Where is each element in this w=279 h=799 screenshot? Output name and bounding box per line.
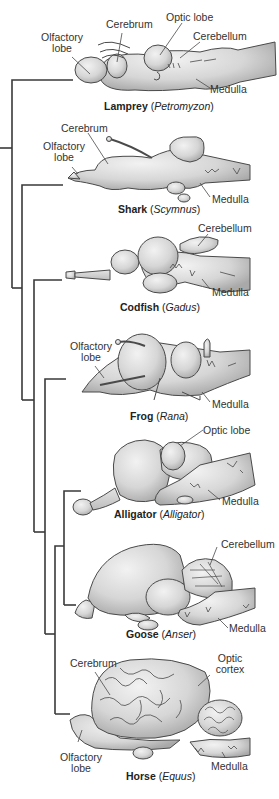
label-frog-olfactory-lobe: Olfactorylobe — [68, 341, 114, 363]
label-horse-olfactory-lobe: Olfactorylobe — [58, 752, 104, 774]
genus-horse: Equus — [162, 770, 192, 782]
common-name-alligator: Alligator — [114, 508, 157, 520]
caption-frog: Frog (Rana) — [130, 410, 188, 422]
branch-shark — [22, 185, 63, 400]
caption-horse: Horse (Equus) — [126, 770, 195, 782]
label-horse-optic-cortex: Opticcortex — [210, 653, 250, 675]
genus-lamprey: Petromyzon — [154, 100, 210, 112]
label-lamprey-cerebellum: Cerebellum — [193, 31, 247, 42]
label-codfish-medulla: Medulla — [212, 287, 249, 298]
common-name-shark: Shark — [118, 203, 147, 215]
label-lamprey-olfactory-lobe: Olfactorylobe — [40, 32, 84, 54]
label-frog-medulla: Medulla — [212, 399, 249, 410]
label-shark-medulla: Medulla — [212, 194, 249, 205]
label-alligator-medulla: Medulla — [222, 496, 259, 507]
genus-shark: Scymnus — [154, 203, 197, 215]
genus-frog: Rana — [160, 410, 185, 422]
genus-codfish: Gadus — [166, 301, 197, 313]
label-shark-cerebrum: Cerebrum — [61, 123, 108, 134]
label-lamprey-cerebrum: Cerebrum — [106, 19, 153, 30]
goose-brain-illustration — [75, 544, 255, 630]
common-name-frog: Frog — [130, 410, 153, 422]
caption-lamprey: Lamprey (Petromyzon) — [104, 100, 214, 112]
label-goose-medulla: Medulla — [229, 623, 266, 634]
label-shark-olfactory-lobe: Olfactorylobe — [42, 141, 86, 163]
caption-alligator: Alligator (Alligator) — [114, 508, 204, 520]
common-name-goose: Goose — [126, 628, 159, 640]
branch-lamprey — [12, 80, 73, 288]
caption-shark: Shark (Scymnus) — [118, 203, 200, 215]
codfish-brain-illustration — [66, 237, 250, 293]
caption-goose: Goose (Anser) — [126, 628, 196, 640]
common-name-horse: Horse — [126, 770, 156, 782]
branch-horse — [55, 546, 70, 714]
label-codfish-cerebellum: Cerebellum — [198, 223, 252, 234]
label-horse-cerebrum: Cerebrum — [70, 658, 117, 669]
label-lamprey-optic-lobe: Optic lobe — [166, 12, 213, 23]
label-horse-medulla: Medulla — [211, 761, 248, 772]
genus-goose: Anser — [165, 628, 192, 640]
common-name-lamprey: Lamprey — [104, 100, 148, 112]
common-name-codfish: Codfish — [120, 301, 159, 313]
label-lamprey-medulla: Medulla — [210, 84, 247, 95]
genus-alligator: Alligator — [163, 508, 201, 520]
label-alligator-optic-lobe: Optic lobe — [203, 425, 250, 436]
branch-codfish — [34, 280, 62, 532]
cladogram-tree — [0, 80, 81, 714]
caption-codfish: Codfish (Gadus) — [120, 301, 200, 313]
label-goose-cerebellum: Cerebellum — [221, 539, 275, 550]
